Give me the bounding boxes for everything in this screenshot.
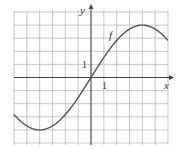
y-tick-1: 1 bbox=[82, 60, 87, 70]
x-axis-label: x bbox=[164, 80, 169, 91]
x-tick-1: 1 bbox=[102, 81, 107, 91]
y-axis-label: y bbox=[80, 5, 85, 16]
function-graph bbox=[0, 0, 176, 149]
curve-label-f: f bbox=[109, 30, 112, 41]
